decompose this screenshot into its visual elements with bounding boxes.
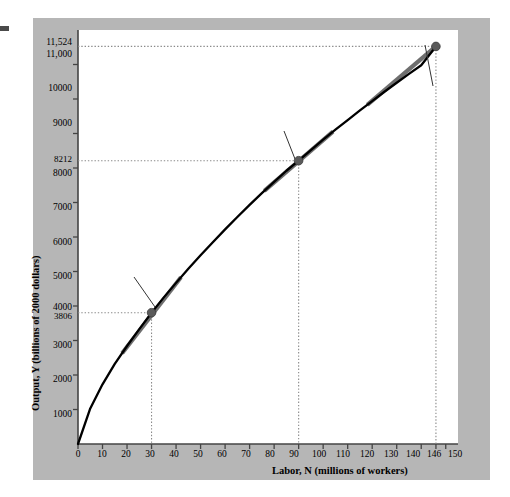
data-point-c[interactable] (294, 156, 303, 165)
data-point-b[interactable] (147, 308, 156, 317)
data-point-a[interactable] (432, 42, 441, 51)
plot-area (78, 30, 458, 444)
chart-layer (73, 30, 458, 449)
chart-canvas (0, 0, 510, 497)
figure-root: Output, Y (billions of 2000 dollars) 11,… (0, 0, 510, 497)
